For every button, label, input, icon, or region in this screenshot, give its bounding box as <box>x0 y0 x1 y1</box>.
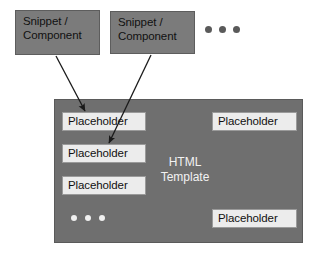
ellipsis-dot <box>99 215 105 221</box>
snippet-component-box-1: Snippet / Component <box>15 10 100 55</box>
ellipsis-dot <box>85 215 91 221</box>
ellipsis-dot <box>219 26 226 33</box>
ellipsis-dot <box>205 26 212 33</box>
template-inner-ellipsis-icon <box>71 215 105 221</box>
ellipsis-dot <box>233 26 240 33</box>
placeholder-box-4: Placeholder <box>212 112 297 131</box>
snippet-component-box-2: Snippet / Component <box>110 11 195 54</box>
html-template-label: HTML Template <box>152 155 218 184</box>
placeholder-box-3: Placeholder <box>62 176 146 195</box>
placeholder-box-1: Placeholder <box>62 112 146 131</box>
top-ellipsis-icon <box>205 26 240 33</box>
html-template-diagram: Snippet / Component Snippet / Component … <box>0 0 319 258</box>
placeholder-box-5: Placeholder <box>212 209 297 228</box>
placeholder-box-2: Placeholder <box>62 144 146 163</box>
ellipsis-dot <box>71 215 77 221</box>
